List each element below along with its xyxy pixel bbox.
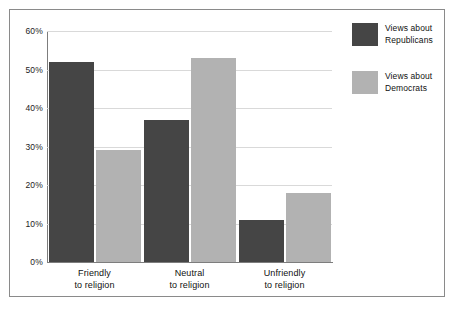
bar-group bbox=[239, 31, 331, 262]
x-axis-category-label: Friendlyto religion bbox=[49, 267, 141, 291]
x-axis-category-label-line1: Unfriendly bbox=[264, 268, 306, 278]
y-axis-tick-label: 20% bbox=[7, 181, 43, 190]
x-axis-category-label: Unfriendlyto religion bbox=[239, 267, 331, 291]
y-axis-tick-label: 40% bbox=[7, 104, 43, 113]
bar[interactable] bbox=[286, 193, 331, 262]
bar[interactable] bbox=[239, 220, 284, 262]
bar[interactable] bbox=[144, 120, 189, 262]
x-axis-category-label-line1: Friendly bbox=[78, 268, 111, 278]
x-axis-category-label: Neutralto religion bbox=[144, 267, 236, 291]
legend-label-line2: Republicans bbox=[385, 34, 447, 46]
x-axis-category-label-line2: to religion bbox=[49, 279, 141, 291]
x-axis-category-label-line2: to religion bbox=[239, 279, 331, 291]
chart-legend: Views aboutRepublicansViews aboutDemocra… bbox=[352, 22, 438, 118]
legend-color-swatch bbox=[352, 23, 378, 46]
legend-label-line1: Views about bbox=[385, 23, 432, 33]
legend-entry[interactable]: Views aboutRepublicans bbox=[352, 22, 438, 52]
bar-group bbox=[144, 31, 236, 262]
x-axis-category-label-line1: Neutral bbox=[175, 268, 205, 278]
bar[interactable] bbox=[191, 58, 236, 262]
y-axis-tick-labels: 0%10%20%30%40%50%60% bbox=[5, 0, 43, 315]
bar[interactable] bbox=[96, 150, 141, 262]
chart-figure: 0%10%20%30%40%50%60% Friendlyto religion… bbox=[0, 0, 454, 315]
bar[interactable] bbox=[49, 62, 94, 262]
legend-label-line2: Democrats bbox=[385, 82, 447, 94]
y-axis-tick-label: 10% bbox=[7, 220, 43, 229]
bar-group bbox=[49, 31, 141, 262]
legend-label-line1: Views about bbox=[385, 71, 432, 81]
x-axis-line bbox=[47, 262, 333, 263]
legend-entry[interactable]: Views aboutDemocrats bbox=[352, 70, 438, 100]
legend-label: Views aboutRepublicans bbox=[385, 22, 447, 46]
y-axis-tick-label: 30% bbox=[7, 143, 43, 152]
y-axis-tick-label: 0% bbox=[7, 258, 43, 267]
legend-color-swatch bbox=[352, 71, 378, 94]
y-axis-tick-label: 50% bbox=[7, 66, 43, 75]
x-axis-category-label-line2: to religion bbox=[144, 279, 236, 291]
legend-label: Views aboutDemocrats bbox=[385, 70, 447, 94]
plot-area bbox=[47, 31, 332, 262]
y-axis-tick-label: 60% bbox=[7, 27, 43, 36]
